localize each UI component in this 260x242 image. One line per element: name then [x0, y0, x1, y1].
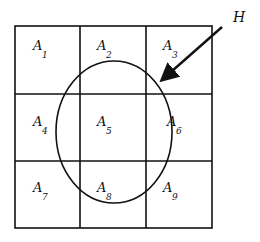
cell-label-a5: A 5	[96, 114, 112, 136]
svg-text:7: 7	[42, 192, 48, 202]
cell-label-a1: A 1	[32, 38, 48, 60]
event-h-ellipse	[56, 61, 172, 203]
svg-text:A: A	[32, 180, 42, 195]
cell-label-a4: A 4	[32, 114, 48, 136]
svg-text:A: A	[96, 180, 106, 195]
svg-text:A: A	[162, 180, 172, 195]
svg-text:9: 9	[172, 192, 178, 202]
partition-diagram: H A 1 A 2 A 3 A 4 A 5 A 6 A 7	[0, 0, 260, 242]
svg-text:5: 5	[106, 126, 112, 136]
svg-text:A: A	[32, 38, 42, 53]
svg-text:A: A	[166, 114, 176, 129]
cell-label-a7: A 7	[32, 180, 48, 202]
svg-text:4: 4	[41, 126, 48, 136]
cell-label-a3: A 3	[162, 38, 178, 60]
svg-text:A: A	[96, 114, 106, 129]
svg-text:3: 3	[172, 50, 178, 60]
cell-label-a6: A 6	[166, 114, 182, 136]
svg-text:8: 8	[106, 192, 112, 202]
svg-text:A: A	[96, 38, 106, 53]
svg-text:6: 6	[176, 126, 182, 136]
svg-text:1: 1	[42, 50, 48, 60]
cell-label-a8: A 8	[96, 180, 112, 202]
svg-text:A: A	[32, 114, 42, 129]
event-h-label: H	[232, 9, 246, 25]
svg-text:2: 2	[105, 50, 112, 60]
diagram-canvas: H A 1 A 2 A 3 A 4 A 5 A 6 A 7	[0, 0, 260, 242]
cell-label-a9: A 9	[162, 180, 178, 202]
svg-text:A: A	[162, 38, 172, 53]
cell-label-a2: A 2	[96, 38, 112, 60]
